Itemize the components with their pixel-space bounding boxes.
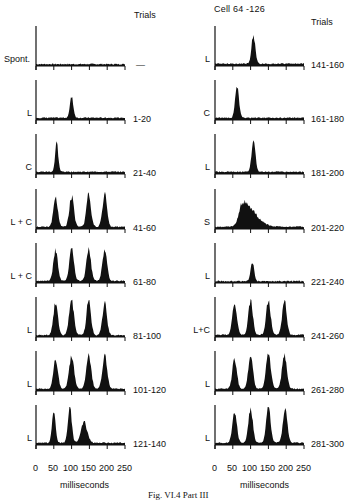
trials-range-label: 81-100	[133, 331, 161, 341]
x-tick-label: 100	[63, 463, 78, 473]
figure-title: Cell 64 -126	[214, 4, 265, 14]
condition-label: L+C	[180, 325, 210, 335]
histogram-bars	[215, 141, 304, 175]
trials-range-label: 61-80	[133, 277, 156, 287]
condition-label: L	[2, 433, 32, 443]
histogram-bars	[215, 263, 304, 283]
condition-label: L	[180, 433, 210, 443]
histogram-bars	[36, 247, 125, 283]
condition-label: Spont.	[4, 54, 34, 64]
histogram-bars	[36, 300, 125, 337]
x-tick-label: 250	[117, 463, 132, 473]
histogram-bars	[215, 299, 304, 337]
condition-label: S	[180, 217, 210, 227]
condition-label: L	[180, 54, 210, 64]
histogram-bars	[215, 407, 304, 445]
trials-header-left: Trials	[134, 10, 156, 20]
condition-label: L + C	[2, 217, 32, 227]
x-tick-label: 150	[260, 463, 275, 473]
histogram-panel	[214, 351, 307, 397]
histogram-bars	[36, 353, 125, 391]
x-tick-label: 200	[278, 463, 293, 473]
trials-range-label: —	[136, 60, 145, 70]
x-tick-label: 200	[99, 463, 114, 473]
histogram-bars	[215, 199, 304, 228]
x-axis-label: milliseconds	[240, 480, 289, 490]
histogram-panel	[214, 134, 307, 180]
histogram-panel	[35, 80, 128, 126]
condition-label: L	[2, 325, 32, 335]
x-tick-label: 250	[296, 463, 311, 473]
histogram-panel	[35, 297, 128, 343]
x-tick-label: 0	[33, 463, 38, 473]
condition-label: L	[2, 379, 32, 389]
trials-range-label: 41-60	[133, 223, 156, 233]
condition-label: C	[180, 108, 210, 118]
histogram-panel	[35, 189, 128, 235]
histogram-bars	[215, 87, 304, 120]
trials-range-label: 121-140	[133, 439, 166, 449]
trials-range-label: 181-200	[311, 168, 344, 178]
histogram-panel	[214, 297, 307, 343]
trials-range-label: 21-40	[133, 168, 156, 178]
x-tick-label: 0	[212, 463, 217, 473]
trials-range-label: 161-180	[311, 114, 344, 124]
x-tick-label: 50	[227, 463, 237, 473]
trials-header-right: Trials	[311, 17, 333, 27]
trials-range-label: 141-160	[311, 60, 344, 70]
histogram-bars	[36, 142, 125, 175]
histogram-bars	[215, 35, 304, 66]
condition-label: C	[2, 162, 32, 172]
condition-label: L	[180, 271, 210, 281]
condition-label: L	[180, 162, 210, 172]
histogram-bars	[36, 98, 125, 121]
trials-range-label: 221-240	[311, 277, 344, 287]
x-tick-label: 150	[81, 463, 96, 473]
trials-range-label: 201-220	[311, 223, 344, 233]
trials-range-label: 241-260	[311, 331, 344, 341]
histogram-panel	[214, 26, 307, 72]
histogram-panel	[35, 134, 128, 180]
condition-label: L	[180, 379, 210, 389]
trials-range-label: 281-300	[311, 439, 344, 449]
histogram-panel	[214, 189, 307, 235]
histogram-bars	[36, 191, 125, 228]
histogram-panel	[214, 243, 307, 289]
trials-range-label: 1-20	[133, 114, 151, 124]
histogram-panel	[35, 26, 128, 72]
histogram-bars	[36, 407, 125, 445]
trials-range-label: 101-120	[133, 385, 166, 395]
histogram-bars	[215, 353, 304, 391]
histogram-panel	[35, 243, 128, 289]
x-tick-label: 100	[242, 463, 257, 473]
x-axis-label: milliseconds	[60, 480, 109, 490]
condition-label: L	[2, 108, 32, 118]
trials-range-label: 261-280	[311, 385, 344, 395]
x-tick-label: 50	[48, 463, 58, 473]
condition-label: L + C	[2, 271, 32, 281]
histogram-panel	[35, 405, 128, 451]
histogram-panel	[214, 405, 307, 451]
histogram-panel	[214, 80, 307, 126]
figure-caption: Fig. VI.4 Part III	[148, 490, 209, 500]
histogram-panel	[35, 351, 128, 397]
